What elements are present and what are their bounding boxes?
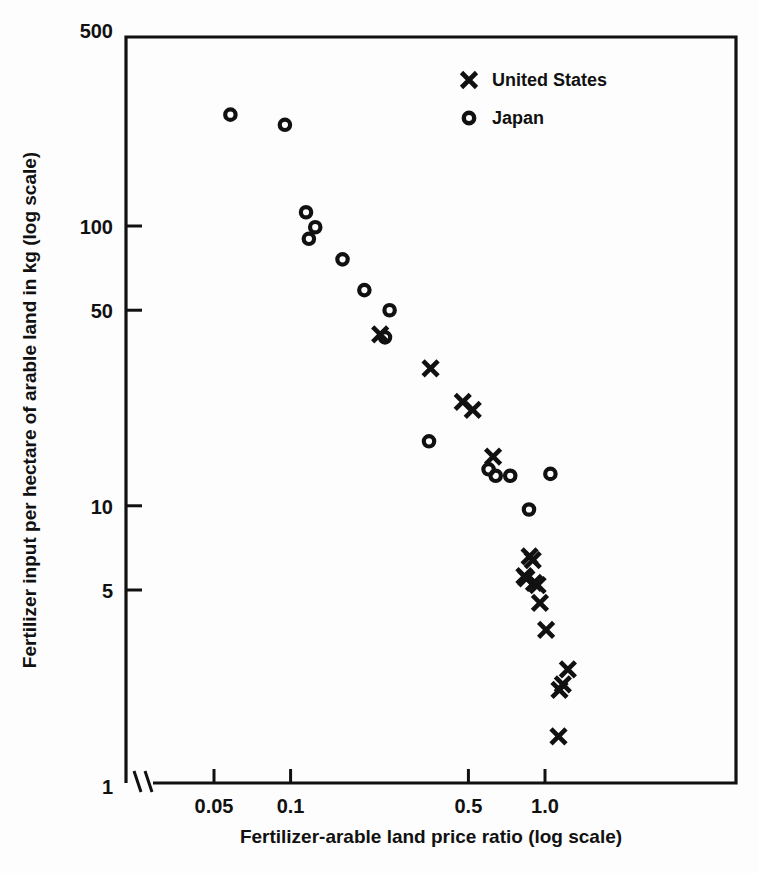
y-tick-label-3: 50 — [91, 300, 113, 322]
y-tick-label-2: 10 — [91, 496, 113, 518]
y-tick-label-5: 500 — [80, 20, 113, 42]
chart-background — [0, 0, 758, 873]
y-tick-label-1: 5 — [102, 580, 113, 602]
y-tick-label-0: 1 — [102, 776, 113, 798]
x-tick-label-1: 0.1 — [277, 795, 305, 817]
x-tick-label-2: 0.5 — [455, 795, 483, 817]
legend-label-japan: Japan — [492, 108, 544, 128]
x-tick-label-3: 1.0 — [531, 795, 559, 817]
x-axis-title: Fertilizer-arable land price ratio (log … — [240, 826, 622, 847]
chart-canvas: 0.050.10.51.0 151050100500 United States… — [0, 0, 758, 873]
scatter-plot-figure: 0.050.10.51.0 151050100500 United States… — [0, 0, 758, 873]
y-tick-label-4: 100 — [80, 216, 113, 238]
y-axis-title: Fertilizer input per hectare of arable l… — [19, 152, 40, 668]
legend-label-united-states: United States — [492, 70, 607, 90]
x-tick-label-0: 0.05 — [195, 795, 234, 817]
